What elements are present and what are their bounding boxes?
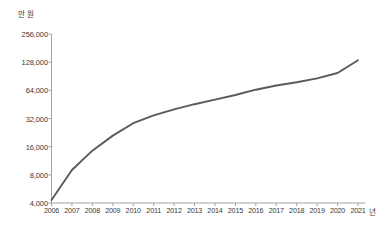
series-line-value (52, 60, 359, 200)
chart-container: 만 원 년 4,0008,00016,00032,00064,000128,00… (0, 0, 386, 233)
plot-area (0, 0, 386, 233)
axis-lines (52, 34, 366, 203)
series-line-group (52, 60, 359, 200)
